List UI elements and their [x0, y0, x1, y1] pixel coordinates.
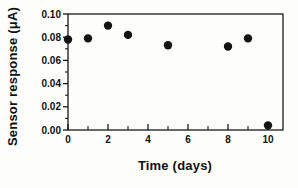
x-tick-label: 10 — [262, 134, 274, 145]
y-tick-label: 0.02 — [42, 101, 62, 112]
data-point — [264, 121, 272, 129]
y-tick-label: 0.10 — [42, 9, 62, 20]
plot-frame — [68, 14, 283, 130]
y-tick-label: 0.06 — [42, 55, 62, 66]
data-point — [64, 35, 72, 43]
x-axis-label: Time (days) — [95, 158, 255, 173]
x-tick-label: 2 — [105, 134, 111, 145]
data-point — [244, 34, 252, 42]
x-tick-label: 6 — [185, 134, 191, 145]
x-tick-label: 0 — [65, 134, 71, 145]
x-tick-label: 8 — [225, 134, 231, 145]
data-point — [104, 21, 112, 29]
y-tick-label: 0.04 — [42, 78, 62, 89]
sensor-response-scatter-chart: 0.000.020.040.060.080.100246810 Sensor r… — [0, 0, 298, 188]
y-tick-label: 0.00 — [42, 125, 62, 136]
y-tick-label: 0.08 — [42, 32, 62, 43]
data-point — [84, 34, 92, 42]
y-axis-label: Sensor response (μA) — [5, 0, 20, 157]
x-tick-label: 4 — [145, 134, 151, 145]
data-point — [124, 31, 132, 39]
data-point — [164, 41, 172, 49]
data-point — [224, 42, 232, 50]
